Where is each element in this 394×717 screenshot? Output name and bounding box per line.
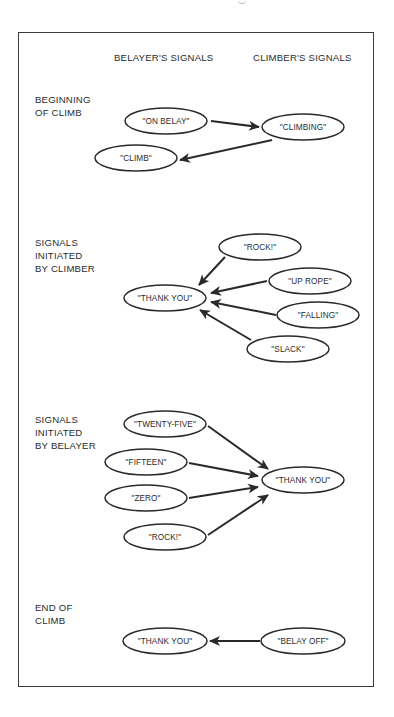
node-label-thank-you-climber: "THANK YOU" bbox=[276, 476, 331, 485]
arrow-on-belay-to-climbing bbox=[211, 121, 259, 127]
node-label-climbing: "CLIMBING" bbox=[280, 123, 326, 132]
arrow-falling-to-thank-you bbox=[211, 302, 276, 315]
node-label-slack: "SLACK" bbox=[271, 345, 304, 354]
node-label-zero: "ZERO" bbox=[131, 494, 160, 503]
node-label-thank-you-end: "THANK YOU" bbox=[138, 637, 193, 646]
node-label-thank-you-belayer: "THANK YOU" bbox=[138, 294, 193, 303]
node-label-on-belay: "ON BELAY" bbox=[142, 117, 189, 126]
arrow-slack-to-thank-you bbox=[200, 310, 251, 340]
node-label-twenty-five: "TWENTY-FIVE" bbox=[134, 420, 196, 429]
arrow-climbing-to-climb bbox=[180, 140, 272, 160]
arrow-fifteen-to-thank-you bbox=[189, 463, 258, 476]
signal-flow-diagram bbox=[0, 0, 394, 717]
node-label-up-rope: "UP ROPE" bbox=[288, 277, 331, 286]
node-label-fifteen: "FIFTEEN" bbox=[126, 458, 167, 467]
node-label-belay-off: "BELAY OFF" bbox=[277, 637, 328, 646]
node-label-rock-climber: "ROCK!" bbox=[244, 243, 276, 252]
node-label-falling: "FALLING" bbox=[298, 311, 338, 320]
node-label-rock-belayer: "ROCK!" bbox=[149, 533, 181, 542]
arrow-rock-to-thank-you bbox=[199, 257, 225, 285]
node-label-climb: "CLIMB" bbox=[120, 154, 152, 163]
arrow-up-rope-to-thank-you bbox=[211, 281, 267, 293]
arrow-zero-to-thank-you bbox=[189, 487, 258, 498]
arrow-rock-to-thank-you-c bbox=[208, 495, 268, 535]
arrow-twenty-five-to-thank-you bbox=[208, 426, 268, 469]
